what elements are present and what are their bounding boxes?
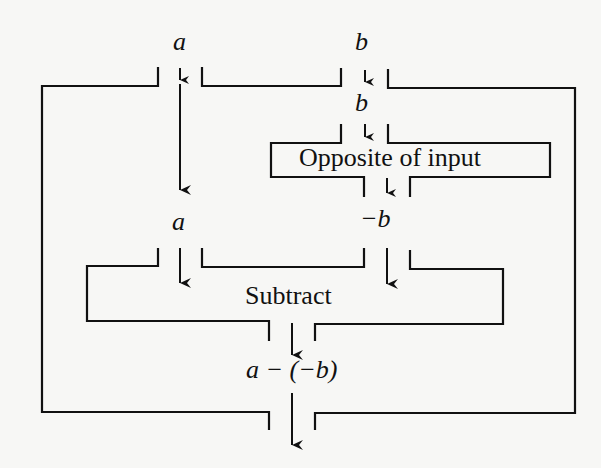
flow-arrows <box>180 68 387 445</box>
negative-b-label: −b <box>360 206 391 232</box>
input-a-label: a <box>173 29 186 55</box>
opposite-of-input-label: Opposite of input <box>299 145 481 171</box>
subtract-input-a-label: a <box>172 209 185 235</box>
flowchart-canvas <box>0 0 601 468</box>
subtract-label: Subtract <box>245 283 332 309</box>
opposite-input-b-label: b <box>355 90 368 116</box>
output-expression-label: a − (−b) <box>246 357 337 383</box>
input-b-label: b <box>355 29 368 55</box>
